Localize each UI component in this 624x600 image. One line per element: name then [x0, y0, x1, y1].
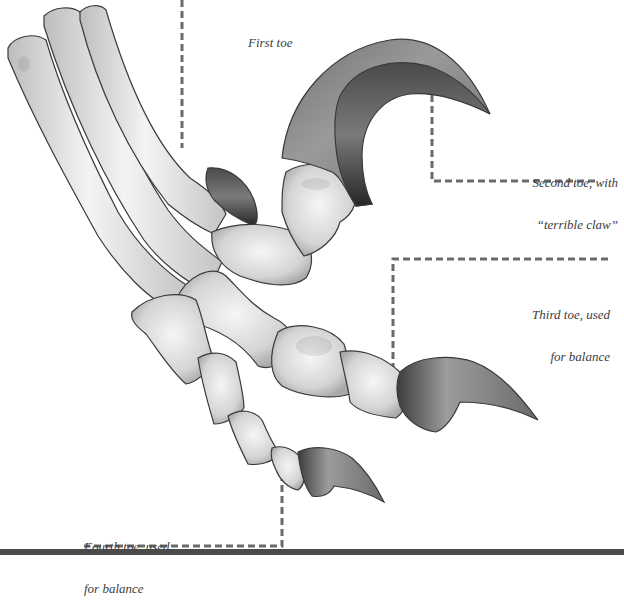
label-third-toe-line2: for balance — [478, 350, 610, 364]
label-second-toe-line1: Second toe, with — [478, 176, 618, 190]
label-fourth-toe: Fourth toe, used for balance — [84, 512, 170, 600]
fourth-toe-claw — [298, 448, 384, 502]
label-third-toe: Third toe, used for balance — [478, 280, 610, 378]
label-second-toe: Second toe, with “terrible claw” — [478, 148, 618, 246]
label-fourth-toe-line2: for balance — [84, 582, 170, 596]
label-first-toe-text: First toe — [248, 36, 292, 50]
metatarsals — [8, 6, 226, 310]
label-first-toe: First toe — [248, 8, 292, 64]
label-second-toe-line2: “terrible claw” — [478, 218, 618, 232]
bottom-divider — [0, 549, 624, 555]
label-third-toe-line1: Third toe, used — [478, 308, 610, 322]
